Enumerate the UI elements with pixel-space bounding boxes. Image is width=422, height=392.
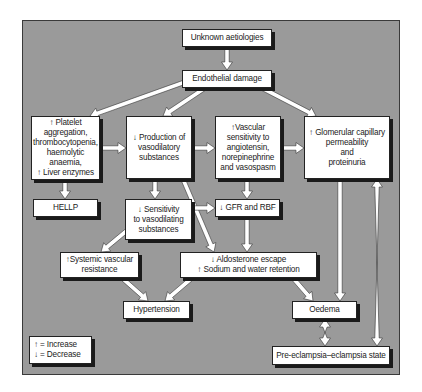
arrow-production-to-vascular (192, 143, 215, 154)
arrow-production-to-sensitivity (150, 179, 161, 199)
arrow-glomerular-to-oedema (335, 179, 346, 301)
node-platelet: ↑ Platelet aggregation, thrombocytopenia… (31, 116, 100, 180)
arrow-platelet-to-production (100, 143, 126, 154)
arrow-gfr-to-aldosterone (242, 217, 253, 252)
arrow-systemic-to-hypertension (121, 276, 149, 301)
node-sensitivity: ↓ Sensitivity to vasodilating substances (125, 199, 192, 240)
node-label: Endothelial damage (192, 74, 262, 84)
arrow-glomerular-preeclampsia (372, 179, 383, 346)
node-label: ↓ Sensitivity to vasodilating substances (133, 205, 183, 235)
node-label: ↓ GFR and RBF (219, 203, 275, 213)
arrow-platelet-to-hellp (60, 180, 71, 199)
node-label: HELLP (53, 203, 78, 213)
legend: ↑ = Increase ↓ = Decrease (29, 336, 92, 364)
node-glomerular: ↑ Glomerular capillary permeability and … (304, 116, 390, 179)
node-vascular: ↑Vascular sensitivity to angiotensin, no… (215, 116, 281, 179)
arrow-aldosterone-to-oedema (291, 277, 313, 301)
node-label: ↓ Production of vasodilatory substances (133, 133, 185, 163)
node-label: Hypertension (133, 305, 179, 315)
arrow-aldosterone-to-hypertension (165, 276, 193, 301)
node-production: ↓ Production of vasodilatory substances (126, 116, 192, 179)
node-preeclampsia: Pre-eclampsia–eclampsia state (272, 346, 390, 365)
node-endothelial-damage: Endothelial damage (182, 70, 272, 88)
arrow-vascular-to-gfr (242, 179, 253, 199)
node-oedema: Oedema (292, 301, 357, 319)
arrow-oedema-preeclampsia (320, 319, 331, 346)
node-label: ↑ Platelet aggregation, thrombocytopenia… (32, 118, 99, 178)
arrow-endothelial-to-glomerular (261, 86, 316, 117)
node-systemic-resistance: ↑Systemic vascular resistance (60, 252, 139, 278)
node-label: ↑Vascular sensitivity to angiotensin, no… (220, 123, 275, 173)
node-unknown-aetiologies: Unknown aetiologies (182, 29, 272, 47)
legend-decrease: ↓ = Decrease (34, 350, 81, 360)
node-hellp: HELLP (33, 199, 98, 217)
node-label: Unknown aetiologies (191, 33, 264, 43)
arrow-unknown-to-endothelial (222, 47, 233, 70)
node-label: Oedema (309, 305, 340, 315)
node-label: ↓ Aldosterone escape ↑ Sodium and water … (197, 255, 299, 275)
arrow-endothelial-to-production (163, 86, 206, 116)
node-aldosterone: ↓ Aldosterone escape ↑ Sodium and water … (180, 252, 317, 278)
node-label: Pre-eclampsia–eclampsia state (276, 351, 385, 361)
node-label: ↑Systemic vascular resistance (66, 255, 133, 275)
legend-increase: ↑ = Increase (34, 340, 81, 350)
node-label: ↑ Glomerular capillary permeability and … (309, 128, 385, 168)
arrows-layer (0, 0, 422, 392)
node-gfr-rbf: ↓ GFR and RBF (215, 199, 280, 217)
node-hypertension: Hypertension (123, 301, 190, 319)
arrow-vascular-to-glomerular (281, 143, 304, 154)
